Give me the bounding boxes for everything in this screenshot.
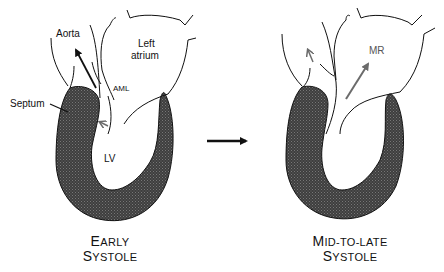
aorta-wall-left <box>51 38 68 86</box>
label-aml: AML <box>113 83 129 94</box>
aorta-cusp <box>92 62 101 84</box>
left-atrium-top <box>127 10 193 25</box>
aortic-flow-arrow <box>76 50 96 88</box>
label-left-atrium-line2: atrium <box>131 50 159 61</box>
left-atrium-connector <box>110 18 116 25</box>
left-atrium-top <box>357 8 422 25</box>
left-atrium-connector <box>346 15 350 20</box>
caption-line1-rest: ID-TO-LATE <box>324 236 387 248</box>
label-mr: MR <box>369 45 385 56</box>
aorta-wall-left <box>282 34 302 86</box>
left-atrium-outline <box>334 20 346 80</box>
caption-line1-initial: E <box>91 233 101 249</box>
panel-early-systole <box>50 10 196 221</box>
label-lv: LV <box>104 153 116 164</box>
aorta-wall-inner <box>70 66 74 88</box>
caption-early-systole: EARLY SYSTOLE <box>60 234 160 264</box>
caption-line2-rest: YSTOLE <box>332 251 377 263</box>
label-left-atrium-line1: Left <box>138 38 155 49</box>
aorta-wall-inner <box>303 68 310 87</box>
caption-line2-initial: S <box>83 248 93 264</box>
caption-line1-initial: M <box>312 233 324 249</box>
caption-mid-to-late-systole: MID-TO-LATE SYSTOLE <box>290 234 410 264</box>
sam-flow-arrow <box>100 122 108 126</box>
label-aorta: Aorta <box>56 28 80 39</box>
anterior-mitral-leaflet <box>108 96 111 134</box>
panel-mid-to-late-systole <box>282 8 435 219</box>
aorta-cusp <box>320 64 334 76</box>
diagram-canvas <box>0 0 444 272</box>
label-septum: Septum <box>10 98 44 109</box>
caption-line2-initial: S <box>323 248 333 264</box>
caption-line1-rest: ARLY <box>100 236 129 248</box>
caption-line2-rest: YSTOLE <box>92 251 137 263</box>
mitral-regurgitation-arrow <box>346 64 368 99</box>
aortic-flow-arrow <box>308 50 313 62</box>
lv-myocardium <box>286 86 404 219</box>
